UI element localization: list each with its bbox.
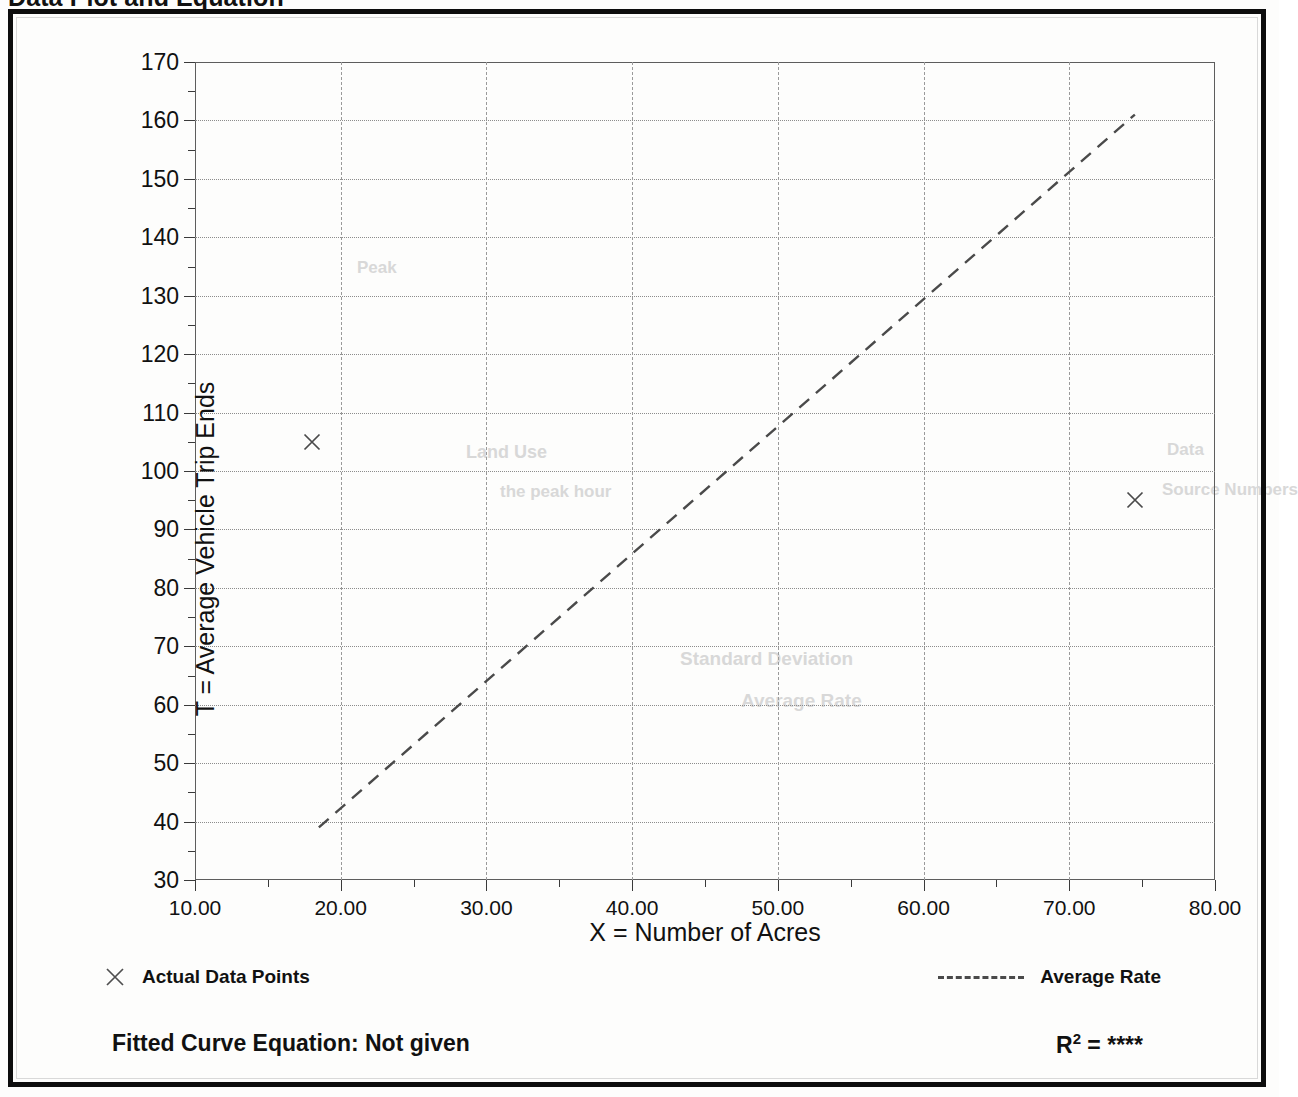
dashed-line-icon <box>938 976 1024 979</box>
x-tick-minor <box>851 880 852 887</box>
x-marker-icon <box>104 966 126 988</box>
x-tick-label: 30.00 <box>460 896 513 920</box>
x-tick-label: 80.00 <box>1189 896 1242 920</box>
y-tick-label: 100 <box>141 458 179 485</box>
y-tick-label: 50 <box>153 750 179 777</box>
y-tick-major <box>184 354 195 355</box>
y-tick-minor <box>188 267 195 268</box>
r-squared-exponent: 2 <box>1073 1030 1081 1047</box>
y-tick-major <box>184 62 195 63</box>
y-tick-label: 30 <box>153 867 179 894</box>
x-tick-major <box>486 880 487 891</box>
x-tick-label: 10.00 <box>169 896 222 920</box>
x-tick-major <box>778 880 779 891</box>
x-tick-minor <box>996 880 997 887</box>
y-tick-minor <box>188 325 195 326</box>
x-tick-minor <box>414 880 415 887</box>
x-tick-minor <box>268 880 269 887</box>
x-tick-major <box>195 880 196 891</box>
x-tick-minor <box>559 880 560 887</box>
x-tick-major <box>924 880 925 891</box>
y-tick-minor <box>188 91 195 92</box>
legend-label-average-rate: Average Rate <box>1040 966 1161 988</box>
x-tick-major <box>341 880 342 891</box>
legend-average-rate: Average Rate <box>938 966 1161 988</box>
y-tick-minor <box>188 208 195 209</box>
y-tick-major <box>184 880 195 881</box>
r-squared-number: **** <box>1107 1032 1143 1058</box>
y-tick-major <box>184 296 195 297</box>
r-squared-equals: = <box>1081 1032 1107 1058</box>
y-tick-major <box>184 822 195 823</box>
legend-actual-data-points: Actual Data Points <box>104 966 310 988</box>
y-tick-minor <box>188 851 195 852</box>
legend-label-actual-data-points: Actual Data Points <box>142 966 310 988</box>
y-tick-label: 90 <box>153 516 179 543</box>
x-tick-label: 60.00 <box>897 896 950 920</box>
y-tick-major <box>184 237 195 238</box>
r-squared-value: R2 = **** <box>1056 1030 1143 1059</box>
x-axis-title: X = Number of Acres <box>195 918 1215 947</box>
x-tick-label: 70.00 <box>1043 896 1096 920</box>
fitted-curve-equation: Fitted Curve Equation: Not given <box>112 1030 470 1057</box>
y-tick-label: 160 <box>141 107 179 134</box>
y-tick-major <box>184 763 195 764</box>
x-tick-label: 40.00 <box>606 896 659 920</box>
y-tick-label: 150 <box>141 165 179 192</box>
y-tick-label: 40 <box>153 808 179 835</box>
plot-area: 30405060708090100110120130140150160170 1… <box>195 62 1215 880</box>
y-tick-minor <box>188 150 195 151</box>
y-tick-label: 60 <box>153 691 179 718</box>
y-axis-title: T = Average Vehicle Trip Ends <box>191 381 220 716</box>
data-point-marker <box>301 431 323 453</box>
y-tick-minor <box>188 734 195 735</box>
x-tick-minor <box>1142 880 1143 887</box>
y-tick-label: 80 <box>153 574 179 601</box>
y-tick-major <box>184 179 195 180</box>
x-tick-major <box>1069 880 1070 891</box>
y-tick-major <box>184 120 195 121</box>
average-rate-trendline <box>195 62 1215 880</box>
y-tick-label: 140 <box>141 224 179 251</box>
y-tick-label: 120 <box>141 341 179 368</box>
x-tick-major <box>632 880 633 891</box>
x-tick-major <box>1215 880 1216 891</box>
y-tick-label: 130 <box>141 282 179 309</box>
x-tick-label: 20.00 <box>314 896 367 920</box>
y-tick-label: 70 <box>153 633 179 660</box>
x-tick-minor <box>705 880 706 887</box>
data-point-marker <box>1124 489 1146 511</box>
y-tick-label: 110 <box>142 399 179 426</box>
y-tick-minor <box>188 792 195 793</box>
r-squared-symbol: R <box>1056 1032 1073 1058</box>
x-tick-label: 50.00 <box>752 896 805 920</box>
y-tick-label: 170 <box>141 49 179 76</box>
